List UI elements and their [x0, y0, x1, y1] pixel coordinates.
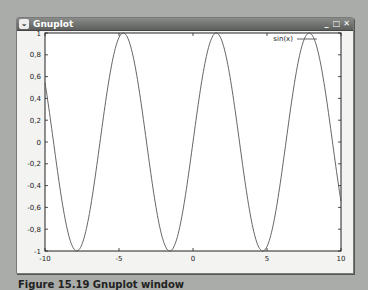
svg-text:0,6: 0,6: [30, 73, 42, 81]
svg-text:-0,4: -0,4: [27, 182, 41, 190]
close-button[interactable]: ✕: [342, 19, 351, 29]
legend-label: sin(x): [273, 35, 293, 43]
svg-text:0: 0: [191, 255, 195, 263]
svg-text:1: 1: [37, 31, 41, 38]
maximize-button[interactable]: □: [332, 19, 341, 29]
svg-text:0,8: 0,8: [30, 51, 41, 59]
title-bar[interactable]: ⌄ Gnuplot _ □ ✕: [17, 18, 353, 31]
window-title: Gnuplot: [33, 18, 73, 30]
svg-text:0: 0: [37, 139, 41, 147]
minimize-button[interactable]: _: [322, 19, 331, 29]
svg-text:0,4: 0,4: [30, 95, 42, 103]
svg-text:-0,6: -0,6: [27, 204, 41, 212]
chevron-down-icon: ⌄: [21, 19, 28, 28]
svg-text:-0,2: -0,2: [27, 160, 41, 168]
svg-text:-5: -5: [116, 255, 123, 263]
gnuplot-window: ⌄ Gnuplot _ □ ✕ 10,80,60,40,20-0,2-0,4-0…: [16, 17, 354, 274]
svg-text:0,2: 0,2: [30, 117, 41, 125]
plot-canvas: 10,80,60,40,20-0,2-0,4-0,6-0,8-1 -10-505…: [17, 31, 353, 273]
svg-text:-0,8: -0,8: [27, 226, 41, 234]
window-menu-button[interactable]: ⌄: [19, 19, 29, 29]
figure-caption: Figure 15.19 Gnuplot window: [18, 279, 184, 290]
svg-text:-10: -10: [39, 255, 50, 263]
svg-text:10: 10: [337, 255, 346, 263]
svg-text:5: 5: [265, 255, 269, 263]
